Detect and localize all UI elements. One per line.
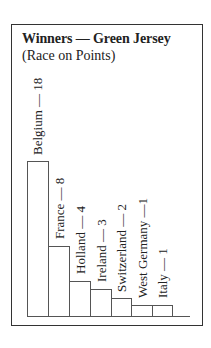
label-west-germany: West Germany —1 — [136, 198, 150, 298]
bar-france — [48, 246, 70, 317]
x-axis-baseline — [27, 316, 190, 317]
label-france: France — 8 — [53, 178, 67, 239]
label-italy: Italy — 1 — [156, 248, 170, 298]
bar-switzerland — [111, 298, 132, 317]
bar-ireland — [90, 289, 112, 317]
chart-title: Winners — Green Jersey — [22, 31, 171, 47]
label-belgium: Belgium — 18 — [31, 78, 45, 155]
bar-belgium — [27, 161, 49, 317]
label-ireland: Ireland — 3 — [95, 219, 109, 282]
chart-subtitle: (Race on Points) — [22, 48, 115, 64]
label-holland: Holland — 4 — [74, 206, 88, 274]
label-switzerland: Switzerland — 2 — [115, 204, 129, 292]
bar-holland — [69, 281, 91, 317]
